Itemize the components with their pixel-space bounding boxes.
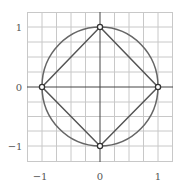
x-tick-labels: −1 0 1 <box>33 171 162 182</box>
marker-bottom <box>97 143 102 148</box>
x-tick-0: 0 <box>97 171 103 182</box>
unit-circle-diagram: −1 0 1 1 0 −1 <box>0 0 181 187</box>
axes <box>27 12 173 162</box>
x-tick-1: 1 <box>155 171 161 182</box>
marker-left <box>39 84 44 89</box>
x-tick-neg1: −1 <box>33 171 48 182</box>
y-tick-neg1: −1 <box>8 141 23 152</box>
marker-top <box>97 24 102 29</box>
y-tick-labels: 1 0 −1 <box>8 22 23 152</box>
y-tick-0: 0 <box>16 82 22 93</box>
marker-right <box>155 84 160 89</box>
y-tick-1: 1 <box>16 22 22 33</box>
